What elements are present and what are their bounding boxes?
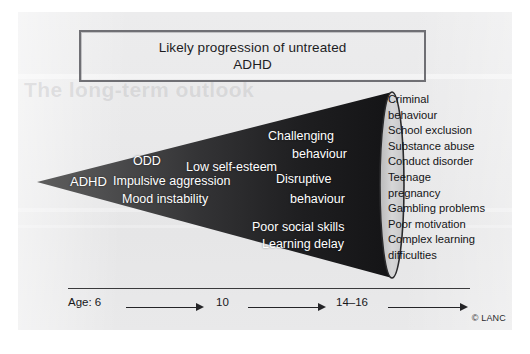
- cone-label: Challenging: [268, 129, 334, 143]
- axis-arrow-icon: [248, 303, 326, 312]
- outcome-list: CriminalbehaviourSchool exclusionSubstan…: [388, 92, 520, 264]
- outcome-item: behaviour: [388, 108, 520, 124]
- outcome-item: pregnancy: [388, 186, 520, 202]
- axis-arrow-icon: [388, 303, 468, 312]
- cone-label: behaviour: [290, 192, 345, 206]
- age-tick-label: 10: [216, 296, 229, 308]
- copyright-label: © LANC: [472, 313, 506, 323]
- outcome-item: Criminal: [388, 92, 520, 108]
- outcome-item: Complex learning: [388, 232, 520, 248]
- arrow-shaft: [126, 307, 197, 308]
- outcome-item: Substance abuse: [388, 139, 520, 155]
- figure-canvas: The long-term outlook Likely progression…: [0, 0, 530, 354]
- cone-label: Mood instability: [122, 192, 208, 206]
- cone-label: Low self-esteem: [186, 160, 277, 174]
- cone-label: ADHD: [70, 174, 107, 189]
- cone-label: Impulsive aggression: [113, 174, 230, 188]
- age-tick-label: 14–16: [336, 296, 368, 308]
- axis-arrow-icon: [126, 303, 204, 312]
- age-tick-label: Age: 6: [68, 296, 101, 308]
- cone-label: Disruptive: [276, 172, 332, 186]
- outcome-item: Teenage: [388, 170, 520, 186]
- outcome-item: Gambling problems: [388, 201, 520, 217]
- arrow-head: [460, 303, 468, 311]
- outcome-item: difficulties: [388, 248, 520, 264]
- cone-label: behaviour: [292, 147, 347, 161]
- arrow-shaft: [248, 307, 319, 308]
- outcome-item: Poor motivation: [388, 217, 520, 233]
- arrow-head: [318, 303, 326, 311]
- arrow-shaft: [388, 307, 461, 308]
- arrow-head: [196, 303, 204, 311]
- axis-rule: [68, 288, 470, 289]
- cone-label: ODD: [133, 154, 161, 168]
- cone-label: Learning delay: [262, 237, 344, 251]
- outcome-item: Conduct disorder: [388, 154, 520, 170]
- outcome-item: School exclusion: [388, 123, 520, 139]
- cone-label: Poor social skills: [252, 220, 344, 234]
- age-axis: Age: 61014–16: [68, 295, 470, 313]
